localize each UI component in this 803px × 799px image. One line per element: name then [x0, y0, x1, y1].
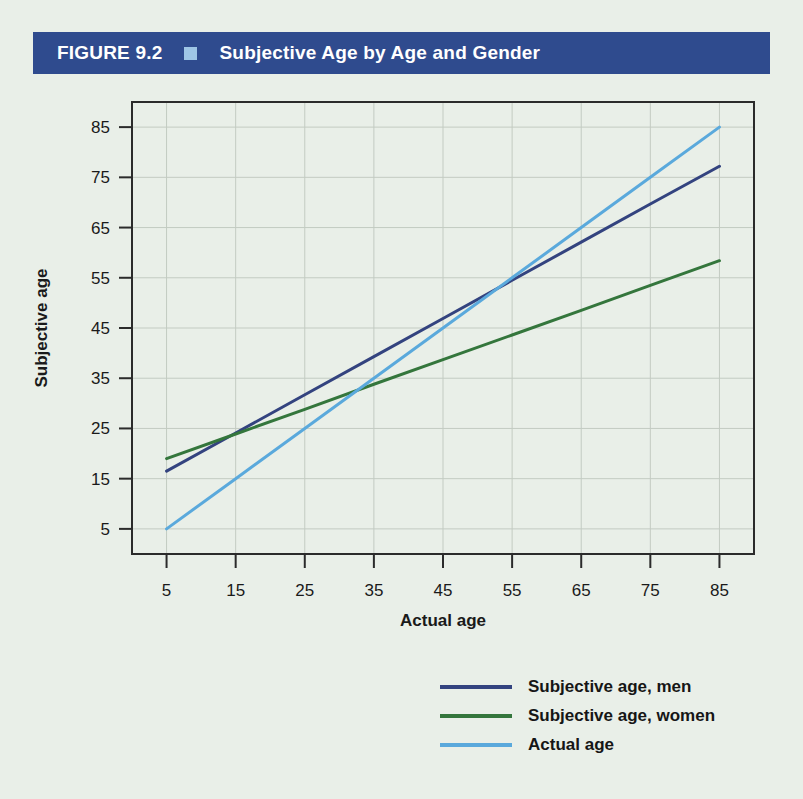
chart-area: 51525354555657585 51525354555657585 Subj… [0, 80, 803, 680]
legend-label-women: Subjective age, women [528, 706, 715, 726]
x-axis-tick-labels: 51525354555657585 [162, 581, 729, 600]
legend-item: Actual age [440, 730, 800, 759]
x-tick-label: 15 [226, 581, 245, 600]
x-tick-label: 25 [295, 581, 314, 600]
legend-swatch-men [440, 685, 512, 689]
y-tick-label: 15 [91, 470, 110, 489]
y-tick-label: 85 [91, 118, 110, 137]
y-axis-tick-labels: 51525354555657585 [91, 118, 110, 539]
x-tick-label: 35 [364, 581, 383, 600]
x-tick-label: 65 [572, 581, 591, 600]
legend-label-men: Subjective age, men [528, 677, 691, 697]
figure-root: FIGURE 9.2 Subjective Age by Age and Gen… [0, 0, 803, 799]
x-tick-label: 55 [503, 581, 522, 600]
y-tick-label: 75 [91, 168, 110, 187]
y-tick-label: 45 [91, 319, 110, 338]
y-tick-label: 25 [91, 419, 110, 438]
y-tick-label: 55 [91, 269, 110, 288]
x-tick-label: 45 [434, 581, 453, 600]
x-axis-ticks [167, 554, 720, 568]
x-axis-title: Actual age [400, 611, 486, 630]
y-tick-label: 5 [101, 520, 110, 539]
y-tick-label: 35 [91, 369, 110, 388]
x-tick-label: 5 [162, 581, 171, 600]
y-axis-ticks [119, 127, 132, 529]
figure-number: FIGURE 9.2 [57, 42, 162, 64]
figure-header-bar: FIGURE 9.2 Subjective Age by Age and Gen… [33, 32, 770, 74]
figure-title: Subjective Age by Age and Gender [219, 42, 540, 64]
legend-item: Subjective age, women [440, 701, 800, 730]
y-tick-label: 65 [91, 219, 110, 238]
x-tick-label: 75 [641, 581, 660, 600]
y-axis-title: Subjective age [32, 268, 51, 387]
line-chart: 51525354555657585 51525354555657585 Subj… [0, 80, 803, 680]
chart-legend: Subjective age, men Subjective age, wome… [440, 672, 800, 759]
square-marker-icon [184, 47, 197, 60]
legend-swatch-women [440, 714, 512, 718]
legend-label-actual: Actual age [528, 735, 614, 755]
legend-item: Subjective age, men [440, 672, 800, 701]
x-tick-label: 85 [710, 581, 729, 600]
legend-swatch-actual [440, 743, 512, 747]
